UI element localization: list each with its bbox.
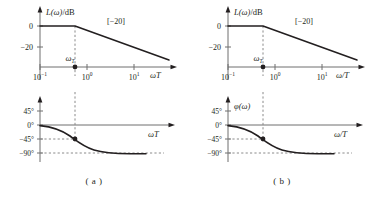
- magnitude-x-axis-label: ωT: [150, 70, 162, 80]
- y-axis-arrow-icon: [226, 6, 231, 13]
- magnitude-ytick-label-minus20: −20: [208, 43, 221, 52]
- phase-curve: [40, 126, 146, 154]
- panel-b: L(ω)/dB 0 −20 10−1 100 101 ω/T [−20] ωT: [188, 0, 376, 202]
- phase-corner-dot: [73, 137, 78, 142]
- corner-frequency-dot: [73, 65, 78, 70]
- x-axis-arrow-icon: [171, 65, 178, 70]
- svg-text:101: 101: [317, 71, 328, 82]
- phase-ytick-label-minus45: −45°: [207, 135, 222, 144]
- phase-ytick-label-0: 0°: [27, 121, 34, 130]
- magnitude-xtick-label-1e1: 101: [129, 71, 140, 82]
- x-axis-arrow-icon: [357, 123, 364, 128]
- corner-frequency-dot: [261, 65, 266, 70]
- phase-ytick-label-45: 45°: [212, 107, 223, 116]
- phase-ytick-label-minus90: −90°: [19, 149, 34, 158]
- xtick-exponent: 0: [90, 71, 93, 77]
- corner-frequency-label: ωT: [253, 53, 263, 64]
- magnitude-y-axis-label: L(ω)/dB: [233, 7, 263, 17]
- svg-text:101: 101: [129, 71, 140, 82]
- y-axis-arrow-icon: [38, 96, 43, 103]
- magnitude-y-axis-label: L(ω)/dB: [45, 7, 75, 17]
- magnitude-xtick-label-1e1: 101: [317, 71, 328, 82]
- phase-y-axis-label: φ(ω): [234, 101, 251, 111]
- phase-corner-dot: [261, 137, 266, 142]
- xtick-exponent: 0: [278, 71, 281, 77]
- magnitude-asymptote-curve: [228, 26, 357, 60]
- panel-b-caption: ( b ): [188, 176, 376, 186]
- xtick-exponent: 1: [137, 71, 140, 77]
- phase-curve: [228, 126, 334, 154]
- phase-x-axis-label: ωT: [148, 129, 160, 139]
- magnitude-xtick-label-1e-1: 10−1: [33, 71, 47, 82]
- panel-a: L(ω)/dB 0 −20 10−1 100 101 ωT [−20]: [0, 0, 188, 202]
- panel-b-magnitude-plot: L(ω)/dB 0 −20 10−1 100 101 ω/T [−20] ωT: [200, 4, 376, 88]
- magnitude-xtick-label-1e0: 100: [270, 71, 281, 82]
- x-axis-arrow-icon: [359, 65, 366, 70]
- phase-ytick-label-45: 45°: [24, 107, 35, 116]
- panel-a-caption: ( a ): [0, 176, 188, 186]
- xtick-mantissa: 10: [33, 73, 41, 82]
- xtick-exponent: −1: [41, 71, 47, 77]
- svg-text:100: 100: [82, 71, 93, 82]
- phase-ytick-label-minus45: −45°: [19, 135, 34, 144]
- phase-ytick-label-minus90: −90°: [207, 149, 222, 158]
- slope-annotation: [−20]: [295, 17, 313, 26]
- magnitude-xtick-label-1e-1: 10−1: [221, 71, 235, 82]
- x-axis-arrow-icon: [169, 123, 176, 128]
- svg-text:10−1: 10−1: [221, 71, 235, 82]
- bode-plot-figure: L(ω)/dB 0 −20 10−1 100 101 ωT [−20]: [0, 0, 376, 202]
- y-axis-arrow-icon: [38, 6, 43, 13]
- phase-x-axis-label: ω/T: [334, 129, 348, 139]
- magnitude-xtick-label-1e0: 100: [82, 71, 93, 82]
- magnitude-ytick-label-0: 0: [29, 22, 33, 31]
- magnitude-x-axis-label: ω/T: [336, 70, 350, 80]
- xtick-exponent: −1: [229, 71, 235, 77]
- magnitude-asymptote-curve: [40, 26, 169, 60]
- svg-text:10−1: 10−1: [33, 71, 47, 82]
- xtick-mantissa: 10: [317, 73, 325, 82]
- xtick-mantissa: 10: [270, 73, 278, 82]
- phase-ytick-label-0: 0°: [215, 121, 222, 130]
- y-axis-arrow-icon: [226, 96, 231, 103]
- xtick-exponent: 1: [325, 71, 328, 77]
- slope-annotation: [−20]: [107, 17, 125, 26]
- xtick-mantissa: 10: [82, 73, 90, 82]
- xtick-mantissa: 10: [129, 73, 137, 82]
- panel-a-phase-plot: 45° 0° −45° −90° ωT: [12, 92, 188, 170]
- corner-frequency-label: ωT: [65, 53, 75, 64]
- xtick-mantissa: 10: [221, 73, 229, 82]
- magnitude-ytick-label-0: 0: [217, 22, 221, 31]
- magnitude-ytick-label-minus20: −20: [20, 43, 33, 52]
- svg-text:100: 100: [270, 71, 281, 82]
- panel-b-phase-plot: 45° 0° −45° −90° φ(ω) ω/T: [200, 92, 376, 170]
- panel-a-magnitude-plot: L(ω)/dB 0 −20 10−1 100 101 ωT [−20]: [12, 4, 188, 88]
